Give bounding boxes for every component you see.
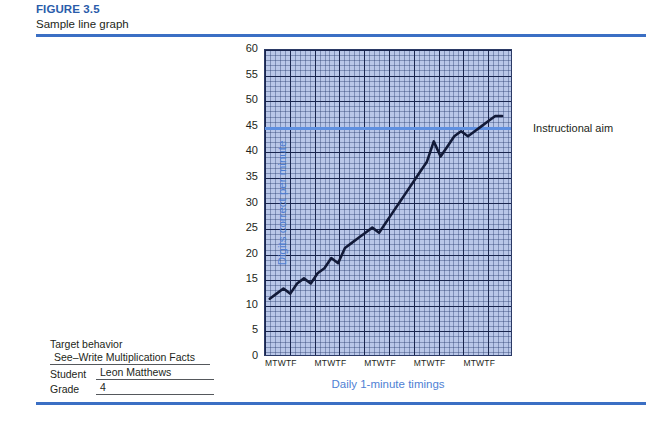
- y-axis-tick-45: 45: [232, 119, 258, 131]
- target-behavior-label: Target behavior: [50, 338, 122, 350]
- grade-label: Grade: [50, 383, 96, 395]
- figure-caption: Sample line graph: [36, 18, 129, 30]
- y-axis-tick-25: 25: [232, 221, 258, 233]
- y-axis-tick-15: 15: [232, 272, 258, 284]
- x-axis-tick-week-3: MTWTF: [364, 358, 396, 368]
- grade-value[interactable]: 4: [96, 381, 214, 395]
- target-behavior-row: Target behavior: [50, 336, 214, 350]
- y-axis-tick-20: 20: [232, 247, 258, 259]
- x-axis-tick-week-5: MTWTF: [463, 358, 495, 368]
- y-axis-tick-10: 10: [232, 298, 258, 310]
- top-divider-rule: [36, 34, 646, 37]
- grade-row: Grade 4: [50, 380, 214, 395]
- y-axis-tick-50: 50: [232, 93, 258, 105]
- student-value[interactable]: Leon Matthews: [96, 366, 214, 380]
- student-label: Student: [50, 368, 96, 380]
- figure-label: FIGURE 3.5: [36, 3, 100, 15]
- y-axis-tick-60: 60: [232, 42, 258, 54]
- line-chart: Digits correct per minute: [264, 49, 512, 356]
- student-row: Student Leon Matthews: [50, 365, 214, 380]
- target-behavior-value[interactable]: See–Write Multiplication Facts: [50, 351, 210, 365]
- x-axis-title: Daily 1-minute timings: [264, 378, 512, 390]
- target-behavior-value-row: See–Write Multiplication Facts: [50, 350, 214, 365]
- bottom-divider-rule: [36, 402, 646, 405]
- x-axis-tick-week-2: MTWTF: [315, 358, 347, 368]
- student-info-form: Target behavior See–Write Multiplication…: [50, 336, 214, 395]
- y-axis-tick-40: 40: [232, 144, 258, 156]
- x-axis-tick-week-1: MTWTF: [265, 358, 297, 368]
- y-axis-tick-35: 35: [232, 170, 258, 182]
- y-axis-tick-30: 30: [232, 196, 258, 208]
- y-axis-tick-5: 5: [232, 323, 258, 335]
- data-line-svg: [265, 50, 511, 355]
- x-axis-tick-week-4: MTWTF: [414, 358, 446, 368]
- y-axis-tick-0: 0: [232, 349, 258, 361]
- plot-area: [264, 49, 512, 356]
- y-axis-tick-55: 55: [232, 68, 258, 80]
- y-axis-title: Digits correct per minute: [276, 140, 288, 265]
- instructional-aim-label: Instructional aim: [533, 122, 613, 134]
